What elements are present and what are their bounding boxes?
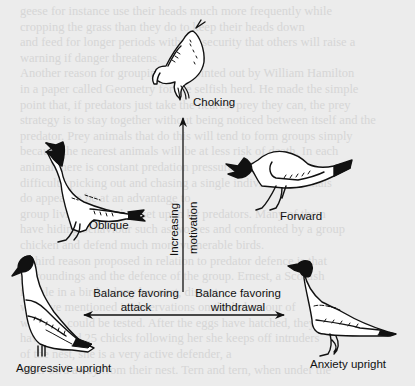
anxiety-upright-bird-illustration xyxy=(288,261,396,356)
label-oblique: Oblique xyxy=(89,219,129,231)
label-aggressive-upright: Aggressive upright xyxy=(16,362,111,374)
label-balance-attack: Balance favoring attack xyxy=(90,286,182,314)
forward-bird-illustration xyxy=(226,151,352,210)
label-balance-withdrawal-line1: Balance favoring xyxy=(192,286,284,300)
label-anxiety-upright: Anxiety upright xyxy=(310,358,386,370)
label-balance-attack-line2: attack xyxy=(90,300,182,314)
diagram-artwork xyxy=(0,0,415,386)
vertical-axis-label-line2: motivation xyxy=(187,202,199,254)
aggressive-upright-bird-illustration xyxy=(12,256,94,356)
label-choking: Choking xyxy=(193,96,235,108)
scanned-page: geese for instance use their heads much … xyxy=(0,0,415,386)
label-balance-withdrawal: Balance favoring withdrawal xyxy=(192,286,284,314)
label-balance-withdrawal-line2: withdrawal xyxy=(192,300,284,314)
label-balance-attack-line1: Balance favoring xyxy=(90,286,182,300)
vertical-axis-label-line1: Increasing xyxy=(168,203,180,256)
label-forward: Forward xyxy=(280,210,322,222)
choking-bird-illustration xyxy=(153,20,205,100)
